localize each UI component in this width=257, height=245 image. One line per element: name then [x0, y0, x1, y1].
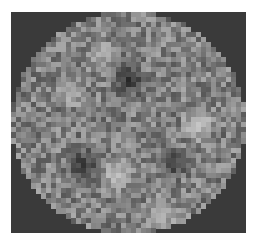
pixel [201, 203, 206, 209]
pixel [211, 193, 216, 199]
pixel [151, 228, 156, 233]
image-frame [11, 12, 246, 233]
pixel [221, 183, 226, 189]
pixel-disk [11, 12, 246, 233]
pixel [206, 198, 211, 204]
pixel [196, 208, 201, 214]
pixel [226, 173, 231, 179]
pixel [216, 188, 221, 194]
pixel [181, 218, 186, 224]
pixel [186, 213, 191, 219]
pixel [236, 153, 241, 159]
pixel [166, 223, 171, 229]
pixel [231, 168, 236, 174]
pixel [241, 138, 246, 144]
